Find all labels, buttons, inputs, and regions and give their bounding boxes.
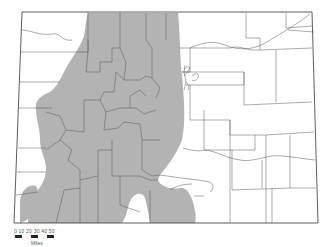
colorado-county-map xyxy=(0,0,332,247)
scale-segment xyxy=(47,235,54,238)
scale-units-label: Miles xyxy=(31,240,43,246)
scale-segment xyxy=(31,235,38,238)
scale-segment xyxy=(15,235,22,238)
shaded-region xyxy=(28,13,196,223)
metro-boundaries xyxy=(184,65,199,90)
scale-bar: 0 10 20 30 40 50 Miles xyxy=(14,228,74,246)
scale-tick-labels: 0 10 20 30 40 50 xyxy=(14,228,55,234)
